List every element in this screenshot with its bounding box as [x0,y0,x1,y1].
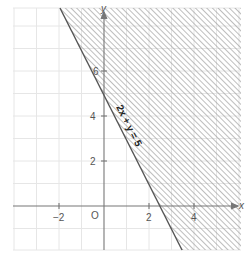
x-tick-label-2: 2 [146,212,152,223]
y-tick-label-2: 2 [90,156,96,167]
origin-label: O [91,210,99,221]
y-axis-label: y [100,3,107,14]
x-tick-label-4: 4 [191,212,197,223]
y-tick-label-4: 4 [90,111,96,122]
x-axis-label: x [238,200,245,211]
y-tick-label-6: 6 [93,66,99,77]
inequality-graph: −2 2 4 2 4 6 O x y 2x + y = 5 [0,0,249,261]
x-tick-label-neg2: −2 [53,212,65,223]
